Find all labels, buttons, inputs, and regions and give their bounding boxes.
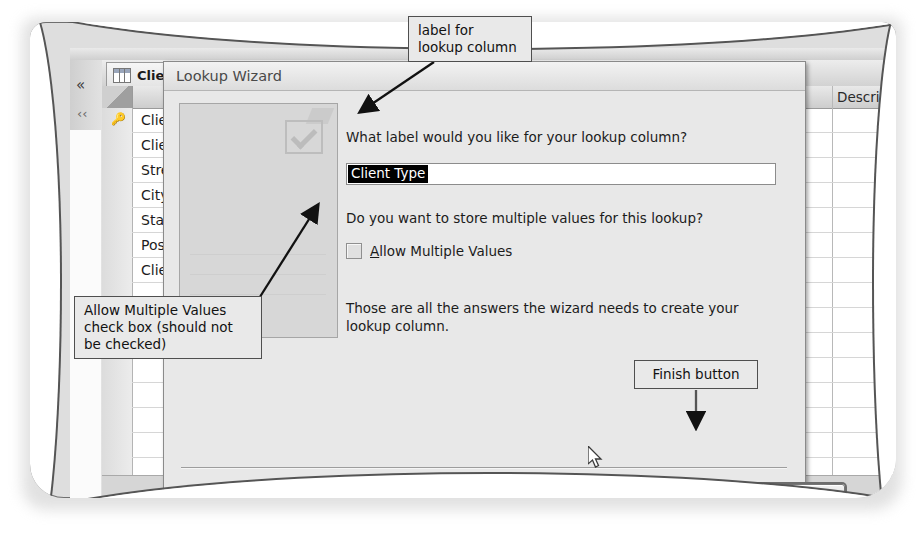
page-warp-left [30, 22, 60, 498]
label-question-text: What label would you like for your looku… [346, 129, 687, 145]
callout-allow-multiple-values: Allow Multiple Values check box (should … [74, 296, 262, 359]
dialog-body: What label would you like for your looku… [164, 91, 805, 498]
primary-key-icon: 🔑 [111, 112, 125, 126]
callout-finish-button: Finish button [634, 360, 758, 389]
callout-allow-text: Allow Multiple Values check box (should … [84, 302, 233, 352]
preview-line [190, 294, 326, 295]
allow-multiple-values-label[interactable]: Allow Multiple Values [370, 243, 512, 259]
preview-line [190, 274, 326, 275]
allow-multiple-values-row[interactable]: Allow Multiple Values [346, 243, 512, 259]
checkbox-label-rest: llow Multiple Values [379, 243, 512, 259]
accelerator-letter: A [370, 243, 379, 259]
callout-label-text: label for lookup column [418, 22, 517, 55]
mouse-cursor-icon [588, 446, 605, 470]
multivalue-question-text: Do you want to store multiple values for… [346, 210, 703, 226]
lookup-wizard-dialog: Lookup Wizard What label would you like … [163, 61, 806, 498]
lookup-label-input[interactable]: Client Type [346, 163, 776, 185]
wizard-closing-text: Those are all the answers the wizard nee… [346, 299, 774, 335]
dialog-title: Lookup Wizard [176, 68, 282, 84]
checkmark-preview-icon [285, 120, 323, 154]
navigation-shutter-bar[interactable]: « ‹‹ [70, 60, 103, 498]
dialog-title-bar[interactable]: Lookup Wizard [164, 62, 805, 91]
button-separator [181, 467, 787, 468]
chevron-collapse-icon[interactable]: ‹‹ [77, 106, 87, 121]
allow-multiple-values-checkbox[interactable] [346, 243, 362, 259]
scanned-page: « ‹‹ Clien Description 🔑 ClienClienStree [30, 22, 896, 498]
double-chevron-left-icon[interactable]: « [76, 76, 85, 94]
lookup-label-value: Client Type [348, 165, 428, 183]
table-grid-icon [113, 68, 131, 83]
preview-line [190, 254, 326, 255]
figure-canvas: « ‹‹ Clien Description 🔑 ClienClienStree [0, 0, 916, 534]
callout-label-for-lookup-column: label for lookup column [408, 16, 532, 62]
callout-finish-text: Finish button [652, 366, 739, 382]
select-all-corner[interactable] [102, 86, 133, 108]
